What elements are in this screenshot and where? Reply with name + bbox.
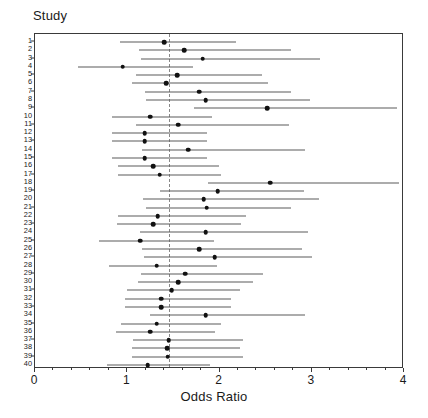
y-axis-label: 12 [24, 128, 32, 135]
y-axis-label: 40 [24, 360, 32, 367]
confidence-interval-line [112, 133, 206, 134]
confidence-interval-line [146, 99, 310, 100]
x-axis-minor-tick [237, 368, 238, 370]
confidence-interval-line [138, 282, 252, 283]
x-axis-minor-tick [274, 368, 275, 370]
odds-ratio-point [201, 56, 206, 61]
x-axis-minor-tick [182, 368, 183, 370]
confidence-interval-line [146, 207, 292, 208]
x-axis-minor-tick [200, 368, 201, 370]
y-axis-label: 6 [28, 79, 32, 86]
confidence-interval-line [118, 166, 219, 167]
y-axis-label: 29 [24, 269, 32, 276]
x-axis-tick [311, 368, 312, 372]
x-axis-minor-tick [292, 368, 293, 370]
odds-ratio-point [148, 114, 153, 119]
x-axis-minor-tick [52, 368, 53, 370]
confidence-interval-line [78, 66, 192, 67]
odds-ratio-point [157, 172, 162, 177]
odds-ratio-point [164, 81, 169, 86]
odds-ratio-point [265, 106, 270, 111]
y-axis-label: 37 [24, 335, 32, 342]
confidence-interval-line [118, 215, 246, 216]
odds-ratio-point [175, 73, 180, 78]
odds-ratio-point [197, 247, 202, 252]
x-axis-minor-tick [385, 368, 386, 370]
confidence-interval-line [99, 240, 214, 241]
odds-ratio-point [142, 139, 147, 144]
y-axis-label: 34 [24, 311, 32, 318]
x-axis-tick-label: 1 [123, 373, 130, 387]
y-axis-label: 14 [24, 145, 32, 152]
odds-ratio-point [213, 255, 218, 260]
odds-ratio-point [120, 65, 125, 70]
odds-ratio-point [166, 338, 171, 343]
confidence-interval-line [141, 273, 263, 274]
x-axis-minor-tick [89, 368, 90, 370]
x-axis-tick-label: 2 [215, 373, 222, 387]
x-axis-tick-label: 3 [307, 373, 314, 387]
odds-ratio-point [159, 305, 164, 310]
y-axis-label: 28 [24, 261, 32, 268]
confidence-interval-line [116, 331, 215, 332]
x-axis-tick-labels: 01234 [34, 373, 403, 389]
y-axis-label: 8 [28, 95, 32, 102]
confidence-interval-line [121, 323, 222, 324]
odds-ratio-point [154, 321, 159, 326]
odds-ratio-point [268, 180, 273, 185]
x-axis-tick-label: 4 [400, 373, 407, 387]
x-axis-tick [126, 368, 127, 372]
confidence-interval-line [139, 50, 290, 51]
odds-ratio-point [215, 189, 220, 194]
confidence-interval-line [142, 149, 305, 150]
confidence-interval-line [120, 42, 236, 43]
y-axis-label: 18 [24, 178, 32, 185]
x-axis-minor-tick [255, 368, 256, 370]
x-axis-minor-tick [108, 368, 109, 370]
odds-ratio-point [162, 40, 167, 45]
x-axis-minor-tick [71, 368, 72, 370]
confidence-interval-line [141, 58, 320, 59]
y-axis-label: 35 [24, 319, 32, 326]
y-axis-label: 23 [24, 220, 32, 227]
x-axis-minor-tick [329, 368, 330, 370]
odds-ratio-point [145, 363, 150, 368]
confidence-interval-line [150, 315, 305, 316]
plot-frame [34, 33, 403, 368]
y-axis-label: 32 [24, 294, 32, 301]
confidence-interval-line [136, 75, 262, 76]
confidence-interval-line [112, 141, 206, 142]
y-axis-label: 38 [24, 344, 32, 351]
y-axis-label: 24 [24, 228, 32, 235]
odds-ratio-point [154, 263, 159, 268]
y-axis-label: 13 [24, 137, 32, 144]
y-axis-label: 30 [24, 277, 32, 284]
y-axis-label: 33 [24, 302, 32, 309]
y-axis-label: 2 [28, 46, 32, 53]
odds-ratio-point [165, 346, 170, 351]
odds-ratio-point [169, 288, 174, 293]
x-axis-tick [219, 368, 220, 372]
confidence-interval-line [112, 116, 213, 117]
x-axis-tick [34, 368, 35, 372]
odds-ratio-point [183, 272, 188, 277]
x-axis-tick [403, 368, 404, 372]
x-axis-minor-tick [145, 368, 146, 370]
odds-ratio-point [142, 156, 147, 161]
confidence-interval-line [118, 174, 221, 175]
odds-ratio-point [142, 131, 147, 136]
confidence-interval-line [109, 265, 217, 266]
x-axis-minor-tick [163, 368, 164, 370]
plot-area [35, 34, 402, 367]
confidence-interval-line [144, 257, 312, 258]
confidence-interval-line [145, 91, 292, 92]
odds-ratio-point [148, 330, 153, 335]
odds-ratio-point [155, 214, 160, 219]
odds-ratio-point [197, 89, 202, 94]
confidence-interval-line [127, 290, 240, 291]
y-axis-label: 10 [24, 112, 32, 119]
confidence-interval-line [140, 232, 308, 233]
y-axis-label: 22 [24, 211, 32, 218]
odds-ratio-point [151, 164, 156, 169]
y-axis-label: 26 [24, 244, 32, 251]
